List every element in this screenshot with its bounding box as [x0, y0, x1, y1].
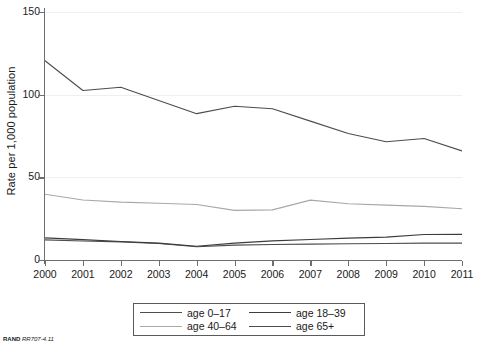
y-axis-tick-label: 100 — [18, 89, 40, 100]
legend-row: age 0–17 age 18–39 — [140, 306, 358, 320]
x-axis-tick-mark — [197, 261, 198, 266]
x-axis-tick-label: 2011 — [441, 268, 478, 280]
x-axis-tick-mark — [348, 261, 349, 266]
y-axis-tick-label: 50 — [18, 171, 40, 182]
legend-label-age-65-plus: age 65+ — [296, 320, 334, 332]
x-axis-tick-mark — [45, 261, 46, 266]
x-axis-tick-mark — [235, 261, 236, 266]
x-axis-tick-label: 2008 — [327, 268, 369, 280]
legend-cell: age 40–64 — [140, 320, 249, 334]
y-axis-tick-mark — [38, 12, 44, 13]
legend-label-age-0-17: age 0–17 — [187, 307, 231, 319]
x-axis-line — [44, 260, 462, 261]
x-axis-tick-mark — [159, 261, 160, 266]
footer-code: RR707-4.11 — [22, 336, 54, 342]
x-axis-tick-mark — [272, 261, 273, 266]
x-axis-tick-label: 2002 — [100, 268, 142, 280]
series-line-age-65 — [45, 61, 462, 151]
series-line-age-40-64 — [45, 194, 462, 210]
x-axis-tick-mark — [462, 261, 463, 266]
footer-brand: RAND — [3, 336, 20, 342]
legend-item-age-18-39[interactable]: age 18–39 — [249, 307, 358, 319]
y-axis-tick-mark — [38, 95, 44, 96]
x-axis-tick-label: 2009 — [365, 268, 407, 280]
legend-swatch-age-18-39 — [249, 312, 291, 313]
legend: age 0–17 age 18–39 age 40–64 — [133, 303, 365, 336]
x-axis-tick-label: 2004 — [176, 268, 218, 280]
x-axis-tick-mark — [121, 261, 122, 266]
figure-source-note: RAND RR707-4.11 — [3, 336, 54, 342]
x-axis-tick-label: 2001 — [62, 268, 104, 280]
x-axis-tick-label: 2006 — [251, 268, 293, 280]
legend-row: age 40–64 age 65+ — [140, 320, 358, 334]
legend-table: age 0–17 age 18–39 age 40–64 — [140, 306, 358, 333]
y-axis-tick-mark — [38, 260, 44, 261]
legend-item-age-0-17[interactable]: age 0–17 — [140, 307, 249, 319]
legend-label-age-40-64: age 40–64 — [187, 320, 237, 332]
legend-cell: age 65+ — [249, 320, 358, 334]
legend-swatch-age-65-plus — [249, 326, 291, 327]
legend-item-age-65-plus[interactable]: age 65+ — [249, 320, 358, 332]
data-lines — [45, 12, 462, 260]
y-axis-tick-label: 150 — [18, 6, 40, 17]
x-axis-tick-label: 2010 — [403, 268, 445, 280]
x-axis-tick-mark — [386, 261, 387, 266]
legend-cell: age 0–17 — [140, 306, 249, 320]
legend-swatch-age-40-64 — [140, 326, 182, 327]
x-axis-tick-mark — [83, 261, 84, 266]
legend-item-age-40-64[interactable]: age 40–64 — [140, 320, 249, 332]
x-axis-tick-label: 2005 — [214, 268, 256, 280]
x-axis-tick-label: 2003 — [138, 268, 180, 280]
legend-swatch-age-0-17 — [140, 312, 182, 313]
x-axis-tick-mark — [424, 261, 425, 266]
y-axis-ticks: 050100150 — [14, 0, 40, 270]
y-axis-tick-mark — [38, 177, 44, 178]
legend-label-age-18-39: age 18–39 — [296, 307, 346, 319]
x-axis-tick-label: 2007 — [289, 268, 331, 280]
y-axis-tick-label: 0 — [18, 254, 40, 265]
legend-cell: age 18–39 — [249, 306, 358, 320]
x-axis-tick-label: 2000 — [24, 268, 66, 280]
x-axis-tick-mark — [310, 261, 311, 266]
